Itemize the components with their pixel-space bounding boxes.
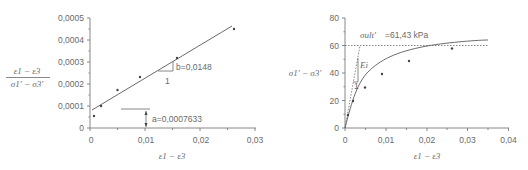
- right-y-tick-label: 0: [334, 123, 339, 133]
- left-y-tick-label: 0,0004: [58, 35, 84, 45]
- left-y-tick-label: 0,0003: [58, 57, 84, 67]
- left-y-axis-label-denominator: σ1' − σ3': [11, 79, 44, 89]
- left-x-tick-label: 0,03: [247, 135, 264, 145]
- left-x-axis-label: ε1 − ε3: [159, 151, 186, 161]
- right-y-axis-label: σ1' − σ3': [289, 68, 322, 78]
- right-fit-curve: [345, 40, 488, 128]
- left-y-tick-label: 0,0001: [58, 101, 84, 111]
- right-x-tick-label: 0,03: [459, 135, 476, 145]
- left-y-tick-label: 0,0002: [58, 79, 84, 89]
- right-y-tick-label: 20: [330, 96, 340, 106]
- right-data-points: [347, 47, 453, 116]
- left-data-points: [93, 28, 235, 117]
- slope-run-label: 1: [165, 76, 170, 86]
- figure: 0,0005 0,0004 0,0003 0,0002 0,0001 0 0 0…: [0, 0, 528, 170]
- left-chart: 0,0005 0,0004 0,0003 0,0002 0,0001 0 0 0…: [6, 13, 264, 161]
- right-y-tick-label: 40: [330, 68, 340, 78]
- right-x-tick-label: 0,02: [419, 135, 436, 145]
- intercept-arrow-up-icon: [145, 111, 148, 115]
- ei-label: Ei: [359, 60, 368, 70]
- intercept-label: a=0,0007633: [152, 114, 202, 124]
- slope-label: b=0,0148: [176, 62, 212, 72]
- left-x-tick-label: 0,02: [193, 135, 210, 145]
- asymptote-label: =61,43 kPa: [385, 30, 429, 40]
- left-y-tick-label: 0,0005: [58, 13, 84, 23]
- left-y-tick-label: 0: [79, 123, 84, 133]
- left-x-tick-label: 0,01: [138, 135, 155, 145]
- right-x-axis-label: ε1 − ε3: [414, 151, 441, 161]
- left-y-axis-label-numerator: ε1 − ε3: [14, 66, 41, 76]
- right-chart: 80 60 40 20 0 0 0,01 0,02 0,03 0,04 ε1 −…: [289, 13, 517, 161]
- right-x-tick-label: 0,01: [378, 135, 395, 145]
- intercept-arrow-down-icon: [145, 123, 148, 127]
- right-x-tick-label: 0: [343, 135, 348, 145]
- left-x-tick-label: 0: [89, 135, 94, 145]
- right-x-tick-label: 0,04: [500, 135, 517, 145]
- right-y-tick-label: 80: [330, 13, 340, 23]
- right-y-tick-label: 60: [330, 41, 340, 51]
- asymptote-symbol: σult': [360, 30, 377, 40]
- ei-slope-triangle: [353, 58, 358, 82]
